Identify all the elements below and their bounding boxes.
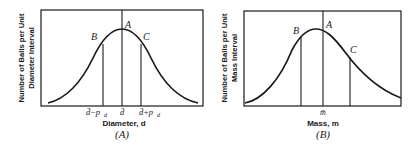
tick-d-bar: d̄ — [120, 107, 125, 117]
panel-b-xlabel: Mass, m — [307, 119, 339, 128]
panel-b: A B C Number of Balls per Unit Mass Inte… — [220, 11, 401, 141]
panel-a-ylabel: Number of Balls per Unit Diameter Interv… — [17, 13, 36, 102]
tick-d-plus-p: d̄+p — [139, 107, 153, 117]
panel-b-point-c: C — [350, 44, 357, 55]
panel-a-xlabel: Diameter, d — [102, 119, 145, 128]
panel-a-point-a: A — [124, 19, 132, 30]
panel-a-caption: (A) — [115, 128, 129, 141]
panel-a-point-c: C — [143, 31, 150, 42]
panel-b-point-a: A — [325, 19, 333, 30]
panel-b-point-b: B — [293, 25, 299, 36]
tick-d-minus-p-sub: d — [104, 112, 108, 118]
panel-a-ticks: d̄−p d d̄ d̄+p d — [86, 107, 161, 118]
tick-m-bar: m̄ — [320, 108, 326, 117]
panel-a-point-b: B — [91, 31, 97, 42]
panel-a-curve — [48, 29, 198, 103]
svg-text:Diameter Interval: Diameter Interval — [27, 27, 36, 89]
panel-a: A B C Number of Balls per Unit Diameter … — [17, 10, 203, 141]
tick-d-plus-p-sub: d — [157, 112, 161, 118]
panel-b-ylabel: Number of Balls per Unit Mass Interval — [220, 13, 239, 102]
panel-b-caption: (B) — [316, 128, 330, 141]
svg-text:Number of Balls per Unit: Number of Balls per Unit — [17, 13, 26, 102]
figure: A B C Number of Balls per Unit Diameter … — [0, 0, 418, 147]
svg-text:Number of Balls per Unit: Number of Balls per Unit — [220, 13, 229, 102]
svg-text:Mass Interval: Mass Interval — [230, 34, 239, 82]
tick-d-minus-p: d̄−p — [86, 107, 100, 117]
